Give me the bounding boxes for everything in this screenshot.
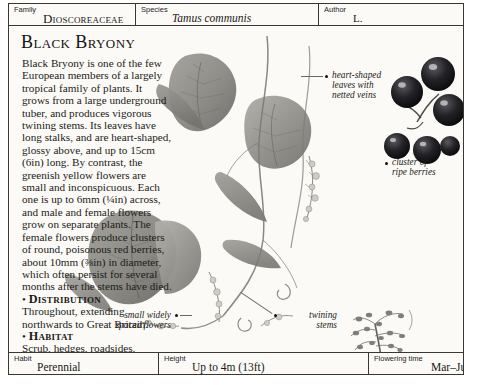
species-card: Family Dioscoreaceae Species Tamus commu… <box>8 3 464 375</box>
flowering-label: Flowering time <box>374 354 423 363</box>
header-cell-author: Author L. <box>319 4 463 25</box>
habitat-text: Scrub, hedges, roadsides. <box>22 342 172 352</box>
anno-dot-stems <box>274 314 277 317</box>
annotation-berries: cluster of ripe berries <box>392 157 462 177</box>
family-value: Dioscoreaceae <box>43 11 124 25</box>
annotation-leaves: heart-shaped leaves with netted veins <box>332 70 412 101</box>
family-label: Family <box>14 5 36 14</box>
distribution-heading: Distribution <box>29 292 101 306</box>
card-body: Black Bryony Black Bryony is one of the … <box>9 26 463 352</box>
leader-line-flowers <box>180 315 192 316</box>
card-footer: Habit Perennial Height Up to 4m (13ft) F… <box>9 352 463 374</box>
leader-line-leaves <box>301 76 323 77</box>
flowering-value: Mar–July <box>431 361 463 373</box>
anno-dot-flowers <box>175 314 178 317</box>
page-title: Black Bryony <box>21 32 135 53</box>
footer-cell-flowering: Flowering time Mar–July <box>369 353 463 374</box>
anno-dot-leaves <box>325 75 328 78</box>
author-label: Author <box>324 5 346 14</box>
species-value: Tamus communis <box>172 12 251 24</box>
annotation-stems: twining stems <box>281 310 337 330</box>
habit-label: Habit <box>14 354 32 363</box>
description-block: Black Bryony is one of the few European … <box>22 57 172 352</box>
card-header: Family Dioscoreaceae Species Tamus commu… <box>9 4 463 26</box>
habitat-bullet: • <box>22 330 26 342</box>
species-label: Species <box>141 5 168 14</box>
habitat-heading: Habitat <box>29 329 74 343</box>
header-cell-species: Species Tamus communis <box>136 4 319 25</box>
header-cell-family: Family Dioscoreaceae <box>9 4 136 25</box>
annotation-flowers: small widely spaced flowers <box>105 310 171 330</box>
distribution-bullet: • <box>22 293 26 305</box>
anno-dot-berries <box>385 162 388 165</box>
habit-value: Perennial <box>37 361 80 373</box>
author-value: L. <box>353 12 362 24</box>
habitat-section: • Habitat <box>22 330 172 342</box>
description-paragraph: Black Bryony is one of the few European … <box>22 57 172 293</box>
height-label: Height <box>164 354 186 363</box>
footer-cell-habit: Habit Perennial <box>9 353 159 374</box>
footer-cell-height: Height Up to 4m (13ft) <box>159 353 369 374</box>
distribution-section: • Distribution <box>22 293 172 305</box>
height-value: Up to 4m (13ft) <box>192 361 265 373</box>
